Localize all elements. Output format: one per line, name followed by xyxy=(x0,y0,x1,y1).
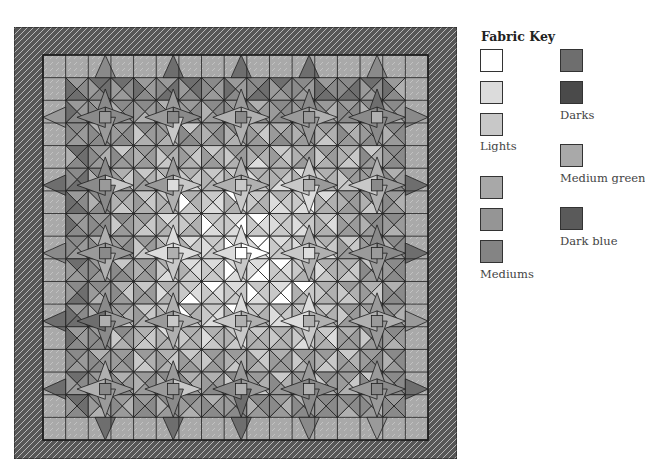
quilt-diagram xyxy=(14,27,457,459)
swatch-medium-3 xyxy=(480,240,503,263)
label-medium-green: Medium green xyxy=(560,171,645,185)
fabric-key-title: Fabric Key xyxy=(481,29,555,44)
label-dark-blue: Dark blue xyxy=(560,234,617,248)
label-mediums: Mediums xyxy=(480,267,534,281)
swatch-light-2 xyxy=(480,81,503,104)
swatch-dark-2 xyxy=(560,81,583,104)
label-lights: Lights xyxy=(480,139,517,153)
swatch-dark-1 xyxy=(560,49,583,72)
swatch-medium-green xyxy=(560,144,583,167)
swatch-medium-1 xyxy=(480,176,503,199)
swatch-dark-blue xyxy=(560,207,583,230)
quilt-svg xyxy=(14,27,457,459)
swatch-light-1 xyxy=(480,49,503,72)
fabric-key: Fabric Key Lights Mediums Darks Medium g… xyxy=(480,29,637,299)
swatch-medium-2 xyxy=(480,208,503,231)
label-darks: Darks xyxy=(560,108,594,122)
swatch-light-3 xyxy=(480,113,503,136)
